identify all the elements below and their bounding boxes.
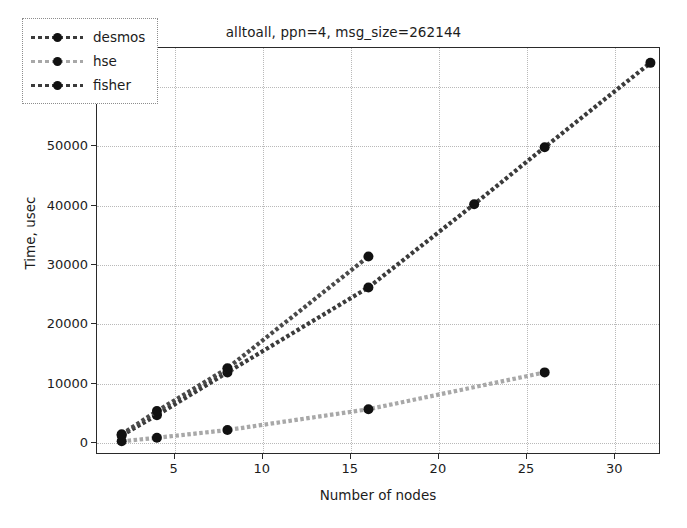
data-point-marker: [152, 406, 162, 416]
y-tick-label: 0: [80, 435, 88, 450]
legend-label-hse: hse: [93, 53, 117, 69]
x-tick-label: 25: [518, 461, 535, 476]
data-point-marker: [363, 252, 373, 262]
y-tick-mark: [91, 442, 96, 443]
data-point-marker: [363, 282, 373, 292]
data-point-marker: [540, 367, 550, 377]
x-tick-label: 15: [342, 461, 359, 476]
data-point-marker: [117, 429, 127, 439]
y-tick-mark: [91, 205, 96, 206]
data-point-marker: [645, 58, 655, 68]
x-tick-mark: [526, 454, 527, 459]
data-point-marker: [363, 404, 373, 414]
y-tick-mark: [91, 264, 96, 265]
y-tick-label: 20000: [47, 316, 88, 331]
data-point-marker: [222, 425, 232, 435]
x-axis-ticks: 51015202530: [96, 454, 660, 480]
chart-figure: alltoall, ppn=4, msg_size=262144 Time, u…: [0, 0, 687, 528]
legend-label-fisher: fisher: [93, 77, 131, 93]
legend-label-desmos: desmos: [93, 29, 145, 45]
y-tick-label: 50000: [47, 138, 88, 153]
y-tick-mark: [91, 383, 96, 384]
series-fisher: [117, 252, 374, 440]
chart-legend: desmos hse fisher: [22, 18, 158, 104]
legend-item-hse: hse: [31, 49, 145, 73]
legend-swatch-desmos: [31, 30, 83, 44]
x-axis-label: Number of nodes: [96, 487, 660, 503]
data-lines-layer: [97, 48, 659, 453]
data-point-marker: [540, 142, 550, 152]
x-tick-label: 30: [606, 461, 623, 476]
x-tick-mark: [262, 454, 263, 459]
plot-area: [96, 47, 660, 454]
x-tick-label: 20: [430, 461, 447, 476]
x-tick-mark: [614, 454, 615, 459]
legend-swatch-hse: [31, 54, 83, 68]
series-hse: [117, 367, 550, 446]
series-line: [122, 372, 545, 441]
y-tick-label: 10000: [47, 375, 88, 390]
x-tick-mark: [174, 454, 175, 459]
y-tick-mark: [91, 145, 96, 146]
x-tick-label: 5: [169, 461, 177, 476]
x-tick-label: 10: [253, 461, 270, 476]
series-line: [122, 63, 651, 436]
y-tick-label: 30000: [47, 256, 88, 271]
legend-swatch-fisher: [31, 78, 83, 92]
data-point-marker: [152, 433, 162, 443]
series-desmos: [117, 58, 656, 441]
legend-item-desmos: desmos: [31, 25, 145, 49]
x-tick-mark: [350, 454, 351, 459]
plot-inner: [97, 48, 659, 453]
y-tick-mark: [91, 323, 96, 324]
data-point-marker: [469, 199, 479, 209]
y-axis-ticks: 0100002000030000400005000060000: [0, 47, 96, 454]
x-tick-mark: [438, 454, 439, 459]
y-tick-label: 40000: [47, 197, 88, 212]
data-point-marker: [222, 363, 232, 373]
legend-item-fisher: fisher: [31, 73, 145, 97]
